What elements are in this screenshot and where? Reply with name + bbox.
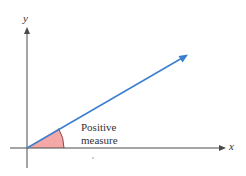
x-axis-arrowhead-icon — [219, 145, 226, 151]
tick-dot — [92, 157, 93, 158]
angle-diagram — [0, 0, 246, 176]
angle-label-line2: measure — [81, 134, 118, 147]
x-axis-label: x — [229, 140, 234, 152]
angle-label-line1: Positive — [81, 121, 118, 134]
y-axis-arrowhead-icon — [24, 27, 30, 34]
angle-label: Positive measure — [81, 121, 118, 147]
y-axis-label: y — [23, 12, 28, 24]
